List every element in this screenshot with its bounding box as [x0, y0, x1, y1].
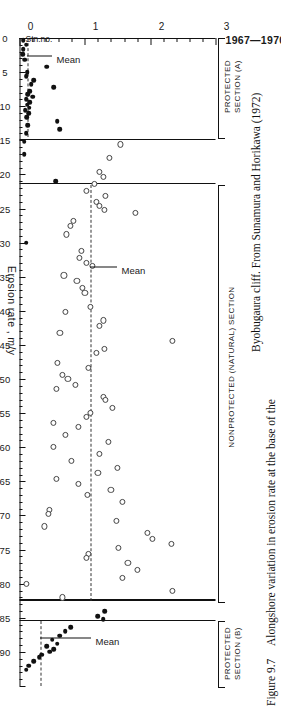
- erosion-tick-label: 0: [28, 21, 34, 32]
- data-point: [53, 179, 58, 184]
- data-point: [100, 174, 106, 180]
- erosion-tick: [150, 38, 151, 45]
- station-tick: [20, 181, 23, 182]
- erosion-tick-label: 1: [93, 21, 99, 32]
- station-tick: [20, 570, 23, 571]
- data-point: [73, 381, 79, 387]
- data-point: [133, 210, 139, 216]
- station-tick: [20, 147, 23, 148]
- data-point: [22, 58, 27, 63]
- erosion-tick: [202, 38, 203, 42]
- data-point: [54, 360, 60, 366]
- station-tick: [20, 427, 23, 428]
- data-point: [103, 396, 109, 402]
- data-point: [82, 290, 88, 296]
- station-tick: [20, 127, 23, 128]
- data-point: [101, 617, 106, 622]
- station-tick: [20, 222, 23, 223]
- station-tick: [20, 249, 23, 250]
- station-tick: [20, 611, 23, 612]
- station-tick: [20, 638, 23, 639]
- data-point: [63, 629, 68, 634]
- station-tick: [20, 277, 26, 278]
- station-tick: [20, 413, 26, 414]
- mean-leader-line: [27, 55, 52, 56]
- station-tick: [20, 522, 23, 523]
- station-tick: [20, 434, 23, 435]
- station-tick-label: 0: [2, 33, 7, 44]
- data-point: [93, 350, 99, 356]
- data-point: [118, 141, 124, 147]
- station-tick: [20, 672, 23, 673]
- data-point: [74, 278, 80, 284]
- data-point: [77, 255, 83, 261]
- station-tick-label: 10: [0, 101, 10, 112]
- data-point: [114, 465, 120, 471]
- data-point: [24, 667, 29, 672]
- station-tick-label: 30: [0, 237, 10, 248]
- plot-canvas: 051015202530354045505560657075808590 012…: [20, 38, 216, 686]
- erosion-tick: [111, 38, 112, 42]
- station-tick: [20, 625, 23, 626]
- station-tick: [20, 195, 23, 196]
- data-point: [24, 131, 29, 136]
- station-tick: [20, 447, 26, 448]
- station-tick: [20, 65, 23, 66]
- data-point: [20, 52, 25, 57]
- mean-label: Mean: [56, 54, 80, 65]
- station-tick: [20, 400, 23, 401]
- data-point: [45, 64, 50, 69]
- data-point: [21, 47, 26, 52]
- data-point: [83, 555, 89, 561]
- data-point: [45, 511, 51, 517]
- mean-label: Mean: [122, 265, 146, 276]
- station-tick: [20, 379, 26, 380]
- station-tick: [20, 304, 23, 305]
- erosion-tick: [137, 38, 138, 42]
- station-tick-label: 75: [0, 544, 10, 555]
- station-tick: [20, 284, 23, 285]
- data-point: [134, 567, 140, 573]
- station-tick: [20, 270, 23, 271]
- station-tick: [20, 99, 23, 100]
- station-tick-label: 85: [0, 612, 10, 623]
- data-point: [83, 260, 89, 266]
- station-tick-label: 65: [0, 476, 10, 487]
- station-tick: [20, 618, 26, 619]
- station-tick: [20, 209, 26, 210]
- station-tick: [20, 652, 26, 653]
- data-point: [50, 420, 56, 426]
- data-point: [37, 655, 42, 660]
- station-tick: [20, 168, 23, 169]
- erosion-tick: [98, 38, 99, 42]
- data-point: [92, 181, 98, 187]
- data-point: [24, 74, 29, 79]
- data-point: [103, 193, 109, 199]
- station-tick: [20, 454, 23, 455]
- station-tick: [20, 488, 23, 489]
- data-point: [50, 444, 56, 450]
- erosion-tick: [124, 38, 125, 42]
- data-point: [47, 650, 52, 655]
- mean-label: Mean: [95, 636, 119, 647]
- station-tick: [20, 502, 23, 503]
- data-point: [62, 432, 68, 438]
- station-tick: [20, 461, 23, 462]
- data-point: [87, 304, 93, 310]
- station-tick: [20, 297, 23, 298]
- data-point: [102, 609, 107, 614]
- data-point: [53, 386, 59, 392]
- station-tick: [20, 393, 23, 394]
- station-tick: [20, 386, 23, 387]
- station-axis-line: [20, 38, 21, 686]
- data-point: [68, 625, 73, 630]
- data-point: [109, 405, 115, 411]
- data-point: [116, 545, 122, 551]
- data-point: [125, 560, 131, 566]
- data-point: [95, 470, 101, 476]
- station-tick-label: 25: [0, 203, 10, 214]
- station-tick: [20, 359, 23, 360]
- data-point: [62, 309, 68, 315]
- section-divider: [20, 139, 216, 140]
- station-axis-tag: Stn.no.: [26, 34, 53, 44]
